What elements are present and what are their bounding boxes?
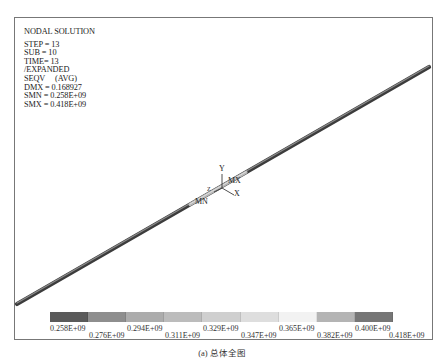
legend-segment <box>50 312 88 322</box>
legend-label: 0.347E+09 <box>241 331 276 340</box>
legend-segment <box>241 312 279 322</box>
legend-label: 0.329E+09 <box>203 324 238 333</box>
legend-label: 0.294E+09 <box>127 324 162 333</box>
figure-caption: (a) 总体全图 <box>0 346 444 358</box>
contour-legend-bar <box>50 312 393 322</box>
model-view <box>0 0 444 363</box>
axis-y-label: Y <box>219 164 225 173</box>
legend-label: 0.382E+09 <box>317 331 352 340</box>
axis-z-label: Z <box>207 186 211 192</box>
max-marker: MX <box>228 176 241 185</box>
legend-segment <box>126 312 164 322</box>
min-marker: MN <box>195 197 208 206</box>
legend-segment <box>164 312 202 322</box>
rod-element <box>17 66 429 304</box>
legend-segment <box>355 312 393 322</box>
legend-label: 0.311E+09 <box>165 331 200 340</box>
legend-segment <box>317 312 355 322</box>
legend-label: 0.258E+09 <box>50 324 85 333</box>
axis-x-label: X <box>234 189 240 198</box>
legend-label: 0.400E+09 <box>355 324 390 333</box>
legend-label: 0.418E+09 <box>389 331 424 340</box>
legend-label: 0.365E+09 <box>279 324 314 333</box>
legend-label: 0.276E+09 <box>89 331 124 340</box>
legend-segment <box>279 312 317 322</box>
legend-segment <box>88 312 126 322</box>
legend-segment <box>202 312 240 322</box>
